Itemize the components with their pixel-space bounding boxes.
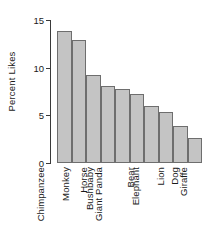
x-axis-label-text: Elephant xyxy=(131,167,141,205)
x-axis-label-text: Giraffe xyxy=(179,167,189,196)
bar xyxy=(86,75,101,163)
bar-chart: Percent Likes 051015 ChimpanzeeMonkeyHor… xyxy=(0,0,221,238)
bar xyxy=(57,31,72,163)
bar xyxy=(173,126,188,163)
y-axis-tick-label: 15 xyxy=(22,15,44,26)
x-axis-label-text: Monkey xyxy=(61,167,71,201)
plot-area xyxy=(50,20,203,163)
bar xyxy=(188,138,203,163)
bar xyxy=(101,86,116,163)
y-axis-tick xyxy=(46,163,50,164)
bar xyxy=(159,112,174,163)
bar xyxy=(130,94,145,163)
y-axis-title-text: Percent Likes xyxy=(6,51,17,111)
x-axis-label-text: Chimpanzee xyxy=(36,167,46,221)
bar xyxy=(72,40,87,163)
y-axis-tick-label: 10 xyxy=(22,62,44,73)
bar xyxy=(144,106,159,163)
y-axis-title: Percent Likes xyxy=(0,0,22,163)
x-axis-label-text: Giant Panda xyxy=(94,167,104,221)
y-axis-tick-label: 5 xyxy=(22,110,44,121)
bar xyxy=(115,89,130,163)
x-axis-label-text: Lion xyxy=(156,167,166,185)
